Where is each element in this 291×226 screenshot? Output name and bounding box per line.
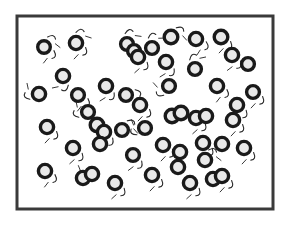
particle (145, 168, 158, 181)
particle (131, 50, 144, 63)
particle (171, 160, 184, 173)
particle (120, 89, 133, 102)
particle (66, 141, 79, 154)
particle (99, 79, 112, 92)
particle-diagram (0, 0, 291, 226)
particle (225, 48, 238, 61)
particle (69, 36, 82, 49)
particle (226, 113, 239, 126)
particle (38, 41, 51, 54)
particle (116, 124, 129, 137)
particle (159, 55, 172, 68)
particle (127, 149, 140, 162)
particle (139, 122, 152, 135)
particle (210, 79, 223, 92)
particle (56, 69, 69, 82)
particle (38, 164, 51, 177)
particle (237, 141, 250, 154)
particle (196, 136, 209, 149)
particle (183, 176, 196, 189)
particle (173, 145, 186, 158)
particle (32, 87, 45, 100)
particle (72, 89, 85, 102)
figure-root (0, 0, 291, 226)
particle (215, 137, 228, 150)
particle (214, 30, 228, 44)
particle (189, 32, 202, 45)
particle (163, 80, 176, 93)
particle (93, 137, 106, 150)
particle (215, 169, 228, 182)
particle (85, 167, 98, 180)
particle (82, 106, 95, 119)
particle (164, 30, 178, 44)
particle (146, 42, 159, 55)
particle (189, 63, 202, 76)
particle (156, 138, 169, 151)
particle (230, 98, 243, 111)
particle (199, 109, 212, 122)
particle (108, 176, 121, 189)
particle (247, 86, 260, 99)
particle (174, 106, 188, 120)
particle (242, 58, 255, 71)
particle (40, 120, 53, 133)
particle (133, 98, 146, 111)
particle (198, 153, 211, 166)
